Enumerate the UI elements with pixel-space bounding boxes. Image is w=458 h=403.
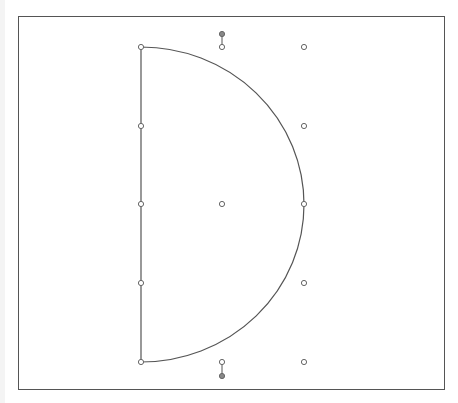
control-point-upper-right[interactable] bbox=[301, 123, 306, 128]
anchor-point-mid-upper-left[interactable] bbox=[138, 123, 143, 128]
control-point-top-handle-base[interactable] bbox=[219, 44, 224, 49]
anchor-point-bottom-left[interactable] bbox=[138, 359, 143, 364]
control-point-bottom-right[interactable] bbox=[301, 359, 306, 364]
control-point-lower-right[interactable] bbox=[301, 280, 306, 285]
anchor-point-center[interactable] bbox=[219, 201, 224, 206]
top-rotation-handle[interactable] bbox=[219, 31, 224, 36]
bottom-rotation-handle[interactable] bbox=[219, 373, 224, 378]
drawing-canvas[interactable] bbox=[0, 0, 458, 403]
canvas-frame bbox=[19, 17, 445, 390]
anchor-point-top-left[interactable] bbox=[138, 44, 143, 49]
control-points[interactable] bbox=[219, 44, 306, 364]
anchor-point-right-apex[interactable] bbox=[301, 201, 306, 206]
control-point-top-right[interactable] bbox=[301, 44, 306, 49]
anchor-point-mid-left[interactable] bbox=[138, 201, 143, 206]
control-point-bottom-handle-base[interactable] bbox=[219, 359, 224, 364]
anchor-point-mid-lower-left[interactable] bbox=[138, 280, 143, 285]
anchor-points[interactable] bbox=[138, 44, 306, 364]
